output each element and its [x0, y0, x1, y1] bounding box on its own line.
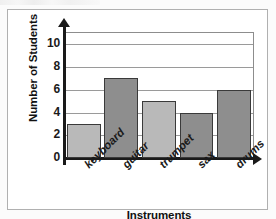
y-axis-tick-label: 2 — [26, 127, 60, 141]
y-axis-tick-label: 6 — [26, 82, 60, 96]
y-axis-tick-label: 8 — [26, 59, 60, 73]
bar-series — [65, 33, 253, 158]
chart-frame: Number of Students 0246810 keyboardguita… — [7, 9, 268, 210]
x-axis-title: Instruments — [64, 209, 254, 219]
y-axis-tick-label: 4 — [26, 105, 60, 119]
bar-slot — [142, 33, 176, 158]
cropped-title-artifact — [0, 0, 100, 5]
bar-slot — [67, 33, 101, 158]
y-axis-tick-label: 0 — [26, 150, 60, 164]
x-axis-ticks: keyboardguitartrumpetsaxdrums — [65, 162, 253, 208]
chart-figure: Number of Students 0246810 keyboardguita… — [0, 0, 276, 219]
y-axis-ticks: 0246810 — [22, 32, 60, 159]
bar-slot — [217, 33, 251, 158]
y-axis-arrow-icon — [58, 18, 70, 27]
y-axis-tick-label: 10 — [26, 36, 60, 50]
